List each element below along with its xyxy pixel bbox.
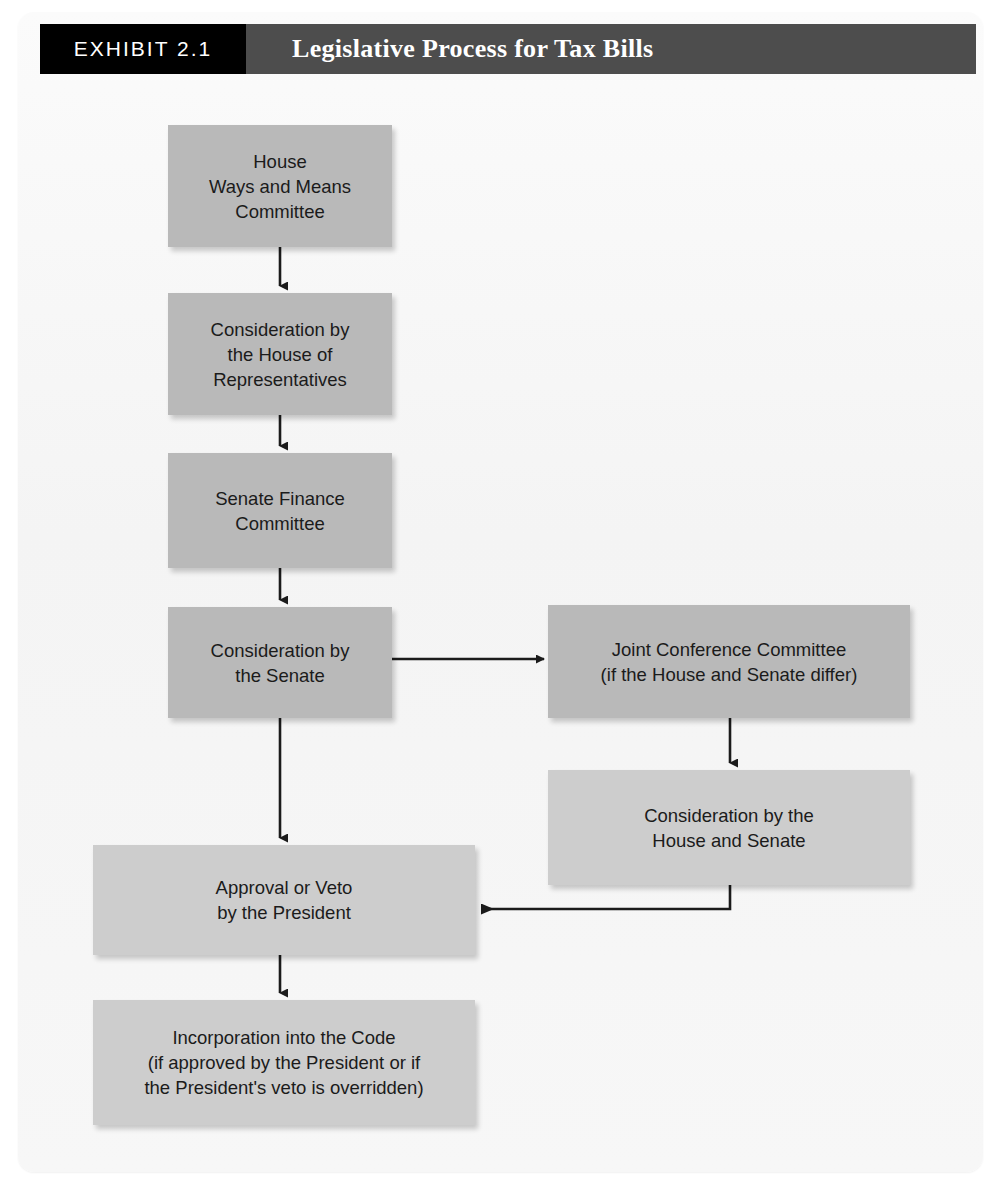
node-senate-finance: Senate Finance Committee: [168, 453, 392, 568]
node-line: (if approved by the President or if: [148, 1050, 421, 1075]
node-joint-conference: Joint Conference Committee (if the House…: [548, 605, 910, 718]
node-line: Joint Conference Committee: [612, 637, 846, 662]
node-line: Ways and Means: [209, 174, 351, 199]
node-line: Committee: [235, 511, 324, 536]
node-line: Senate Finance: [215, 486, 345, 511]
node-senate-consideration: Consideration by the Senate: [168, 607, 392, 718]
node-line: Representatives: [213, 367, 347, 392]
edge-house-senate-to-president: [482, 885, 730, 909]
node-line: Committee: [235, 199, 324, 224]
node-line: Consideration by: [211, 317, 350, 342]
node-line: House: [253, 149, 306, 174]
node-line: (if the House and Senate differ): [601, 662, 858, 687]
node-line: the President's veto is overridden): [144, 1075, 423, 1100]
node-house-ways-means: House Ways and Means Committee: [168, 125, 392, 247]
node-presidential-action: Approval or Veto by the President: [93, 845, 475, 955]
flowchart: House Ways and Means Committee Considera…: [0, 0, 1001, 1204]
node-house-consideration: Consideration by the House of Representa…: [168, 293, 392, 415]
node-line: Incorporation into the Code: [172, 1025, 395, 1050]
node-line: by the President: [217, 900, 351, 925]
node-code-incorporation: Incorporation into the Code (if approved…: [93, 1000, 475, 1125]
node-line: the Senate: [235, 663, 325, 688]
node-line: the House of: [228, 342, 333, 367]
node-line: Consideration by the: [644, 803, 814, 828]
node-line: House and Senate: [652, 828, 805, 853]
node-line: Consideration by: [211, 638, 350, 663]
node-line: Approval or Veto: [216, 875, 353, 900]
node-house-senate-consideration: Consideration by the House and Senate: [548, 770, 910, 885]
